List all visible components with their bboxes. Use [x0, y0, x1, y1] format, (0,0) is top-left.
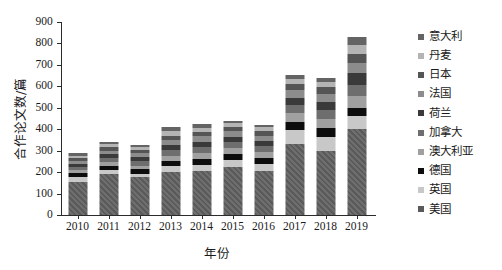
- bar-2018: [316, 78, 335, 215]
- bar-segment-意大利: [347, 37, 366, 45]
- y-axis-tick-label: 800: [35, 38, 52, 50]
- bar-2012: [130, 145, 149, 215]
- bar-segment-澳大利亚: [347, 96, 366, 108]
- legend-swatch-icon: [418, 72, 424, 78]
- legend-item-label: 意大利: [429, 31, 462, 43]
- legend-swatch-icon: [418, 34, 424, 40]
- bar-segment-日本: [347, 54, 366, 63]
- x-axis-tick: [171, 215, 172, 219]
- bar-2014: [192, 124, 211, 215]
- x-axis-tick-label: 2018: [314, 220, 337, 232]
- bar-segment-德国: [347, 108, 366, 117]
- bar-segment-法国: [316, 94, 335, 102]
- legend-item-澳大利亚[interactable]: 澳大利亚: [418, 142, 502, 161]
- x-axis-tick: [78, 215, 79, 219]
- bar-segment-荷兰: [316, 102, 335, 111]
- x-axis-tick: [233, 215, 234, 219]
- x-axis-tick-label: 2012: [128, 220, 151, 232]
- legend-item-label: 丹麦: [429, 50, 451, 62]
- y-axis-tick: [57, 43, 62, 44]
- bar-segment-美国: [99, 174, 118, 215]
- x-axis-tick-label: 2016: [252, 220, 275, 232]
- legend-item-label: 英国: [429, 184, 451, 196]
- legend-item-label: 澳大利亚: [429, 146, 473, 158]
- legend-item-label: 荷兰: [429, 108, 451, 120]
- x-axis-tick: [202, 215, 203, 219]
- x-axis-tick: [357, 215, 358, 219]
- x-axis-tick-label: 2013: [159, 220, 182, 232]
- legend-swatch-icon: [418, 91, 424, 97]
- bar-2013: [161, 127, 180, 215]
- y-axis-tick-label: 0: [47, 209, 53, 221]
- legend-swatch-icon: [418, 168, 424, 174]
- y-axis-tick: [57, 172, 62, 173]
- y-axis-tick: [57, 194, 62, 195]
- bar-segment-美国: [223, 167, 242, 215]
- y-axis-tick: [57, 151, 62, 152]
- y-axis-tick-label: 600: [35, 81, 52, 93]
- legend-item-label: 德国: [429, 165, 451, 177]
- x-axis-tick: [109, 215, 110, 219]
- bar-2011: [99, 142, 118, 215]
- bar-2019: [347, 37, 366, 215]
- bar-segment-澳大利亚: [285, 113, 304, 122]
- bar-segment-丹麦: [347, 45, 366, 54]
- y-axis-tick: [57, 108, 62, 109]
- bar-2015: [223, 121, 242, 215]
- bar-segment-英国: [223, 160, 242, 167]
- bar-segment-加拿大: [285, 105, 304, 113]
- bar-segment-英国: [285, 130, 304, 144]
- x-axis-tick: [264, 215, 265, 219]
- bar-segment-美国: [192, 171, 211, 215]
- legend-swatch-icon: [418, 110, 424, 116]
- x-axis-tick-label: 2014: [190, 220, 213, 232]
- chart-legend: 意大利丹麦日本法国荷兰加拿大澳大利亚德国英国美国: [418, 27, 502, 219]
- bar-segment-美国: [285, 144, 304, 215]
- bar-segment-英国: [347, 116, 366, 129]
- x-axis-tick: [326, 215, 327, 219]
- y-axis-tick: [57, 215, 62, 216]
- y-axis-tick-label: 900: [35, 16, 52, 28]
- bar-segment-法国: [285, 90, 304, 97]
- legend-item-丹麦[interactable]: 丹麦: [418, 46, 502, 65]
- x-axis-tick-label: 2015: [221, 220, 244, 232]
- x-axis-tick-label: 2011: [97, 220, 120, 232]
- bar-segment-德国: [285, 122, 304, 131]
- bar-2017: [285, 75, 304, 215]
- x-axis-title: 年份: [62, 243, 372, 262]
- plot-area: 0100200300400500600700800900201020112012…: [62, 22, 372, 215]
- legend-item-法国[interactable]: 法国: [418, 85, 502, 104]
- bar-segment-法国: [347, 63, 366, 73]
- x-axis-tick-label: 2017: [283, 220, 306, 232]
- y-axis-tick-label: 100: [35, 188, 52, 200]
- legend-swatch-icon: [418, 206, 424, 212]
- bar-segment-加拿大: [316, 110, 335, 119]
- legend-item-荷兰[interactable]: 荷兰: [418, 104, 502, 123]
- bar-segment-美国: [68, 182, 87, 215]
- legend-item-加拿大[interactable]: 加拿大: [418, 123, 502, 142]
- legend-item-label: 美国: [429, 204, 451, 216]
- bar-2010: [68, 153, 87, 215]
- legend-item-美国[interactable]: 美国: [418, 200, 502, 219]
- bar-segment-美国: [316, 151, 335, 215]
- legend-swatch-icon: [418, 187, 424, 193]
- y-axis-tick: [57, 65, 62, 66]
- legend-item-日本[interactable]: 日本: [418, 65, 502, 84]
- y-axis-tick: [57, 22, 62, 23]
- legend-swatch-icon: [418, 149, 424, 155]
- stacked-bar-chart: 0100200300400500600700800900201020112012…: [0, 0, 502, 270]
- legend-swatch-icon: [418, 130, 424, 136]
- y-axis-tick-label: 200: [35, 166, 52, 178]
- legend-item-label: 法国: [429, 88, 451, 100]
- legend-swatch-icon: [418, 53, 424, 59]
- bar-segment-日本: [316, 87, 335, 94]
- x-axis-tick-label: 2019: [345, 220, 368, 232]
- bar-segment-美国: [130, 177, 149, 215]
- y-axis-title-wrap: 合作论文数/篇: [0, 22, 20, 215]
- bar-segment-美国: [254, 171, 273, 215]
- bar-segment-美国: [347, 129, 366, 215]
- legend-item-英国[interactable]: 英国: [418, 181, 502, 200]
- legend-item-意大利[interactable]: 意大利: [418, 27, 502, 46]
- x-axis-tick: [295, 215, 296, 219]
- legend-item-德国[interactable]: 德国: [418, 161, 502, 180]
